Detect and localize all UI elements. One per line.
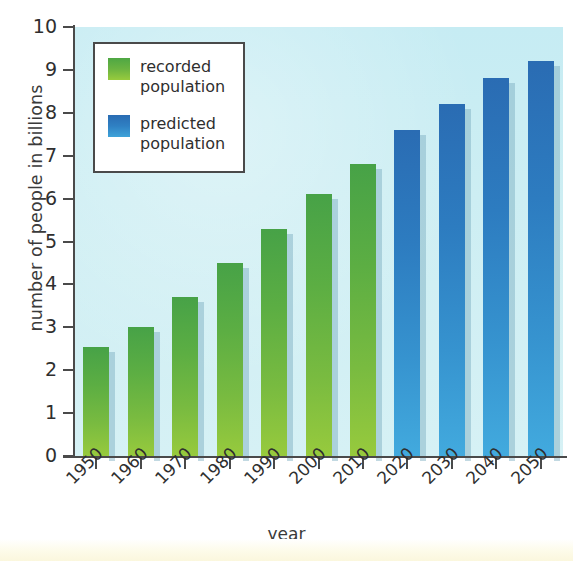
bar-fill (306, 194, 332, 456)
bar-1960 (128, 327, 154, 456)
bar-shadow (554, 66, 560, 461)
bar-fill (350, 164, 376, 456)
y-axis-tick-label: 7 (0, 146, 57, 165)
legend-label-predicted: predicted population (140, 114, 225, 153)
legend-label-recorded-line1: recorded (140, 57, 211, 76)
bar-fill (172, 297, 198, 456)
bar-2040 (483, 78, 509, 456)
bar-2030 (439, 104, 465, 456)
legend-label-recorded-line2: population (140, 77, 225, 96)
bar-1950 (83, 347, 109, 456)
legend-label-recorded: recorded population (140, 57, 225, 96)
bar-fill (217, 263, 243, 456)
legend-entry-recorded: recorded population (108, 57, 225, 96)
population-bar-chart: number of people in billions 01234567891… (0, 0, 573, 561)
bar-1980 (217, 263, 243, 456)
y-axis-tick-label: 4 (0, 274, 57, 293)
bar-fill (128, 327, 154, 456)
bar-2020 (394, 130, 420, 456)
y-axis-tick (63, 412, 74, 414)
y-axis-tick (63, 455, 74, 457)
page-bottom-band (0, 539, 573, 561)
legend-swatch-predicted-icon (108, 115, 130, 137)
legend-label-predicted-line2: population (140, 134, 225, 153)
bar-fill (439, 104, 465, 456)
y-axis-tick (63, 283, 74, 285)
y-axis-tick (63, 155, 74, 157)
bar-fill (83, 347, 109, 456)
y-axis-tick-label: 5 (0, 232, 57, 251)
y-axis-tick-label: 2 (0, 360, 57, 379)
bar-1970 (172, 297, 198, 456)
y-axis-tick (63, 26, 74, 28)
bar-fill (483, 78, 509, 456)
bar-shadow (243, 268, 249, 461)
y-axis-tick (63, 112, 74, 114)
y-axis-tick (63, 198, 74, 200)
bar-shadow (332, 199, 338, 461)
y-axis-tick-label: 0 (0, 446, 57, 465)
legend-entry-predicted: predicted population (108, 114, 225, 153)
bar-shadow (154, 332, 160, 461)
bar-shadow (198, 302, 204, 461)
bar-shadow (420, 135, 426, 461)
y-axis-tick (63, 369, 74, 371)
legend-swatch-recorded-icon (108, 58, 130, 80)
bar-fill (394, 130, 420, 456)
y-axis-tick (63, 69, 74, 71)
bar-2000 (306, 194, 332, 456)
y-axis-tick-label: 9 (0, 60, 57, 79)
bar-2010 (350, 164, 376, 456)
y-axis-tick-label: 10 (0, 17, 57, 36)
bar-shadow (465, 109, 471, 461)
bar-2050 (528, 61, 554, 456)
bar-shadow (509, 83, 515, 461)
bar-fill (528, 61, 554, 456)
y-axis-tick (63, 241, 74, 243)
legend-label-predicted-line1: predicted (140, 114, 216, 133)
chart-legend: recorded population predicted population (93, 42, 245, 173)
bar-shadow (109, 352, 115, 461)
y-axis-tick-label: 3 (0, 317, 57, 336)
y-axis-tick (63, 326, 74, 328)
y-axis-tick-label: 8 (0, 103, 57, 122)
bar-shadow (287, 234, 293, 461)
bar-fill (261, 229, 287, 456)
x-axis-tick-label: 1950 (62, 443, 107, 488)
bar-1990 (261, 229, 287, 456)
y-axis-tick-label: 6 (0, 189, 57, 208)
y-axis-tick-label: 1 (0, 403, 57, 422)
bar-shadow (376, 169, 382, 461)
